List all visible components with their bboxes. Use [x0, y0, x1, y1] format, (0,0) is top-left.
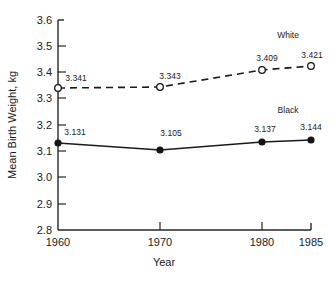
line-chart-canvas: 3.6 3.5 3.4 3.3 3.2 3.1 3.0 2.9 2.8 1960… — [0, 0, 335, 282]
y-tick-label-3-5: 3.5 — [37, 40, 52, 52]
y-tick-label-3-0: 3.0 — [37, 171, 52, 183]
y-tick-label-3-3: 3.3 — [37, 92, 52, 104]
x-tick-label-1960: 1960 — [46, 236, 70, 248]
point-label-white-1980: 3.409 — [256, 53, 278, 63]
y-tick-label-3-2: 3.2 — [37, 119, 52, 131]
series-black-point-1970 — [157, 147, 163, 153]
series-white-point-labels: 3.341 3.343 3.409 3.421 — [65, 50, 323, 83]
series-black-point-1985 — [308, 137, 314, 143]
series-black — [55, 137, 314, 153]
y-axis-ticks — [58, 46, 66, 204]
series-white-line — [58, 66, 311, 88]
x-axis-ticks — [160, 222, 262, 230]
y-tick-label-3-4: 3.4 — [37, 66, 52, 78]
point-label-white-1985: 3.421 — [301, 50, 323, 60]
series-black-line — [58, 140, 311, 150]
point-label-black-1960: 3.131 — [64, 127, 86, 137]
series-white-point-1980 — [259, 67, 266, 74]
y-tick-label-2-9: 2.9 — [37, 198, 52, 210]
series-black-point-1960 — [55, 140, 61, 146]
y-tick-label-2-8: 2.8 — [37, 224, 52, 236]
point-label-white-1960: 3.341 — [65, 73, 87, 83]
point-label-black-1970: 3.105 — [160, 128, 182, 138]
series-white-point-1985 — [308, 63, 315, 70]
series-white-point-1960 — [55, 85, 62, 92]
point-label-black-1985: 3.144 — [300, 122, 322, 132]
series-white-point-1970 — [157, 84, 164, 91]
x-axis-title: Year — [153, 256, 176, 268]
point-label-white-1970: 3.343 — [159, 71, 181, 81]
y-axis-title: Mean Birth Weight, kg — [6, 71, 18, 179]
point-label-black-1980: 3.137 — [254, 124, 276, 134]
y-tick-label-3-6: 3.6 — [37, 14, 52, 26]
series-white — [55, 63, 315, 92]
chart-figure: 3.6 3.5 3.4 3.3 3.2 3.1 3.0 2.9 2.8 1960… — [0, 0, 335, 282]
series-legend-label-white: White — [277, 30, 299, 40]
series-legend-label-black: Black — [278, 105, 300, 115]
y-tick-labels: 3.6 3.5 3.4 3.3 3.2 3.1 3.0 2.9 2.8 — [37, 14, 52, 236]
x-tick-label-1980: 1980 — [250, 236, 274, 248]
series-black-point-1980 — [259, 139, 265, 145]
x-tick-label-1985: 1985 — [299, 236, 323, 248]
x-tick-label-1970: 1970 — [148, 236, 172, 248]
x-tick-labels: 1960 1970 1980 1985 — [46, 236, 323, 248]
series-black-point-labels: 3.131 3.105 3.137 3.144 — [64, 122, 322, 138]
y-tick-label-3-1: 3.1 — [37, 145, 52, 157]
